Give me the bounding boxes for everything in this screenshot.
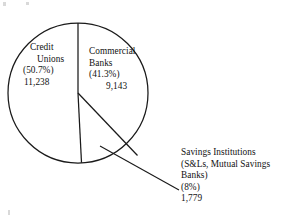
savings-institutions-line1: Savings Institutions bbox=[181, 147, 280, 159]
commercial-banks-line1: Commercial bbox=[89, 46, 151, 58]
commercial-banks-line2: Banks bbox=[89, 58, 151, 70]
savings-institutions-percent: (8%) bbox=[181, 182, 280, 194]
credit-unions-percent: (50.7%) bbox=[23, 65, 77, 77]
savings-institutions-line2: (S&Ls, Mutual Savings bbox=[181, 159, 280, 171]
scan-artifact-top-mid bbox=[26, 2, 29, 5]
commercial-banks-value: 9,143 bbox=[89, 81, 151, 93]
savings-institutions-value: 1,779 bbox=[181, 193, 280, 205]
slice-label-credit-unions: Credit Unions (50.7%) 11,238 bbox=[23, 42, 77, 88]
scan-artifact-top-left bbox=[3, 2, 6, 6]
savings-callout-leader-line bbox=[100, 146, 179, 190]
slice-label-savings-institutions: Savings Institutions (S&Ls, Mutual Savin… bbox=[181, 147, 280, 205]
credit-unions-line2: Unions bbox=[23, 54, 77, 66]
credit-unions-line1: Credit bbox=[23, 42, 77, 54]
pie-chart-figure: Credit Unions (50.7%) 11,238 Commercial … bbox=[0, 0, 282, 222]
scan-artifact-bottom-left bbox=[8, 210, 10, 215]
savings-institutions-line3: Banks) bbox=[181, 170, 280, 182]
commercial-banks-percent: (41.3%) bbox=[89, 69, 151, 81]
credit-unions-value: 11,238 bbox=[23, 77, 77, 89]
slice-label-commercial-banks: Commercial Banks (41.3%) 9,143 bbox=[89, 46, 151, 92]
